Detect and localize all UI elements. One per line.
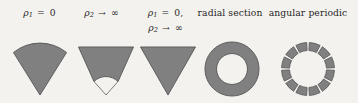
annulus-segment (309, 43, 320, 53)
annulus-segment (309, 85, 320, 95)
label-3-line-2: ρ2 → ∞ (132, 22, 200, 37)
sector-path (14, 43, 67, 95)
annulus-segment (286, 47, 298, 59)
annulus-segment (318, 79, 330, 91)
annulus-segment (296, 85, 307, 95)
circular-sector-icon (4, 38, 76, 100)
label-5-text: angular periodic (269, 7, 348, 18)
figure-label-panel-2: ρ2 → ∞ (68, 7, 136, 22)
label-3-line-1-subscript: 1 (153, 11, 157, 19)
segment-group (282, 43, 335, 96)
annulus-icon (196, 38, 268, 100)
label-3-line-1-value: 0, (173, 7, 184, 18)
figure-label-panel-1: ρ1 = 0 (6, 7, 74, 22)
label-3-line-1-relation: = (161, 7, 171, 18)
math-expression-rho1-equals-zero-comma: ρ1 = 0, (148, 7, 185, 18)
truncated-sector-path (79, 47, 134, 82)
annulus-segment (318, 47, 330, 59)
figure-label-panel-4: radial section (196, 7, 264, 20)
label-1-subscript: 1 (29, 11, 33, 19)
label-2-value: ∞ (110, 7, 120, 18)
label-2-subscript: 2 (90, 11, 94, 19)
figure-label-panel-5: angular periodic (262, 7, 354, 20)
math-expression-rho2-to-infinity: ρ2 → ∞ (84, 7, 119, 18)
figure-label-row: ρ1 = 0 ρ2 → ∞ ρ1 = 0, ρ2 → ∞ radial sec (0, 0, 358, 38)
label-1-value: 0 (49, 7, 57, 18)
triangle-path (141, 47, 196, 95)
annulus-segment (324, 70, 334, 81)
label-3-line-2-subscript: 2 (154, 26, 158, 34)
geometry-configurations-figure: ρ1 = 0 ρ2 → ∞ ρ1 = 0, ρ2 → ∞ radial sec (0, 0, 358, 103)
label-2-relation: → (97, 7, 107, 18)
triangle-sector-icon (132, 38, 204, 100)
notch-outline-path (94, 82, 118, 96)
label-4-text: radial section (198, 7, 263, 18)
label-3-line-1: ρ1 = 0, (132, 7, 200, 22)
shape-panel-4-annulus (196, 38, 268, 100)
label-1-relation: = (36, 7, 46, 18)
label-3-line-2-relation: → (161, 22, 171, 33)
annulus-segment (296, 43, 307, 53)
annulus-segment (282, 57, 292, 68)
segmented-annulus-icon (272, 38, 344, 100)
shape-panel-5-segmented-annulus (272, 38, 344, 100)
annulus-segment (286, 79, 298, 91)
shape-panel-3-triangle-sector (132, 38, 204, 100)
figure-shape-row (0, 38, 358, 103)
annulus-path (205, 42, 259, 96)
annulus-segment (324, 57, 334, 68)
shape-panel-1-circular-sector (4, 38, 76, 100)
label-3-line-2-value: ∞ (174, 22, 184, 33)
math-expression-rho2-to-infinity-second: ρ2 → ∞ (148, 22, 183, 33)
annulus-segment (282, 70, 292, 81)
figure-label-panel-3: ρ1 = 0, ρ2 → ∞ (132, 7, 200, 37)
math-expression-rho1-equals-zero: ρ1 = 0 (23, 7, 57, 18)
